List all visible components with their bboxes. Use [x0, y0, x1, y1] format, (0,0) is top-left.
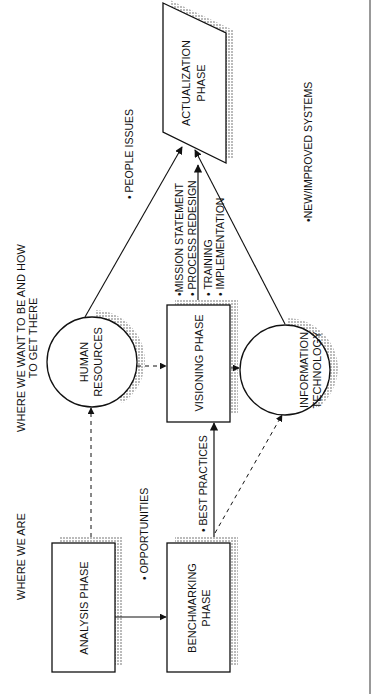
label-opportunities: • OPPORTUNITIES — [138, 488, 150, 580]
human-resources-node: HUMAN RESOURCES — [47, 314, 141, 407]
edge-benchmarking-to-information-technology — [215, 415, 282, 533]
heading-where-we-want-line2: TO GET THERE — [27, 298, 39, 379]
label-process-redesign: • PROCESS REDESIGN — [186, 180, 198, 296]
label-training: • TRAINING — [202, 239, 214, 296]
actualization-phase-label-line1: ACTUALIZATION — [180, 40, 192, 126]
edge-information-technology-to-actualization — [195, 150, 285, 324]
human-resources-label-line1: HUMAN — [78, 342, 90, 382]
label-implementation: • IMPLEMENTATION — [214, 198, 226, 296]
information-technology-node: INFORMATION TECHNOLOGY — [240, 322, 334, 415]
information-technology-label-line1: INFORMATION — [298, 332, 310, 408]
label-mission-statement: •MISSION STATEMENT — [173, 182, 185, 296]
visioning-phase-label: VISIONING PHASE — [193, 314, 205, 411]
label-best-practices: • BEST PRACTICES — [197, 435, 209, 532]
flow-diagram: WHERE WE ARE WHERE WE WANT TO BE AND HOW… — [0, 0, 372, 694]
analysis-phase-label: ANALYSIS PHASE — [78, 561, 90, 654]
heading-where-we-want-line1: WHERE WE WANT TO BE AND HOW — [15, 243, 27, 431]
analysis-phase-node: ANALYSIS PHASE — [52, 537, 123, 672]
information-technology-label-line2: TECHNOLOGY — [311, 331, 323, 409]
actualization-phase-label-line2: PHASE — [195, 64, 207, 101]
human-resources-label-line2: RESOURCES — [92, 327, 104, 397]
benchmarking-phase-label-line1: BENCHMARKING — [186, 563, 198, 653]
actualization-phase-node: ACTUALIZATION PHASE — [163, 0, 233, 163]
visioning-phase-node: VISIONING PHASE — [167, 300, 238, 422]
label-people-issues: • PEOPLE ISSUES — [123, 109, 135, 199]
heading-where-we-are: WHERE WE ARE — [15, 513, 27, 600]
label-new-improved-systems: •NEW/IMPROVED SYSTEMS — [302, 82, 314, 222]
benchmarking-phase-node: BENCHMARKING PHASE — [167, 537, 238, 672]
benchmarking-phase-label-line2: PHASE — [200, 589, 212, 626]
